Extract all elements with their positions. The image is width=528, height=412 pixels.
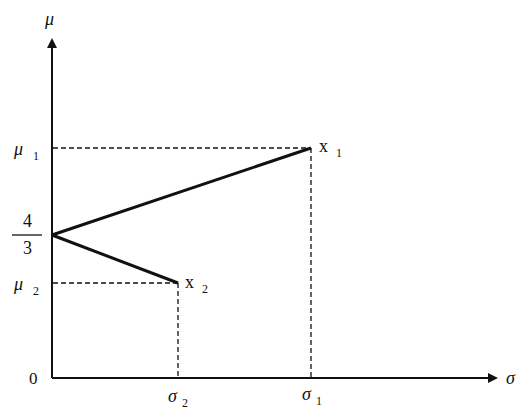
diagram-canvas: μ σ 0 μ 1 4 3 μ 2 σ 2 σ 1 x 1 x 2: [0, 0, 528, 412]
four-thirds-den: 3: [23, 238, 32, 258]
x1-sub: 1: [336, 146, 342, 160]
x2-label: x: [185, 272, 194, 292]
sigma1-sub: 1: [316, 394, 322, 408]
origin-label: 0: [29, 369, 38, 388]
x1-label: x: [319, 136, 328, 156]
sigma1-label: σ: [302, 384, 312, 404]
line-to-x1: [52, 148, 311, 235]
sigma2-sub: 2: [182, 396, 188, 410]
x-axis-label: σ: [506, 368, 516, 388]
y-axis-label: μ: [44, 9, 54, 29]
x2-sub: 2: [202, 282, 208, 296]
line-to-x2: [52, 235, 178, 283]
four-thirds-num: 4: [23, 211, 32, 231]
sigma2-label: σ: [168, 386, 178, 406]
mu2-label: μ: [13, 274, 23, 294]
mu1-label: μ: [13, 139, 23, 159]
mu2-sub: 2: [33, 284, 39, 298]
mu1-sub: 1: [33, 149, 39, 163]
